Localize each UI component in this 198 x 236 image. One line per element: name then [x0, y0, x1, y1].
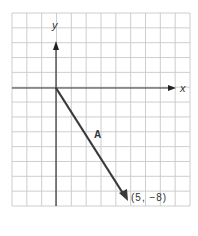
endpoint-label: (5, −8) [131, 192, 167, 203]
vector-a [56, 88, 128, 201]
y-axis [53, 41, 59, 206]
vector-diagram: x y A (5, −8) [0, 0, 198, 236]
vector-label: A [94, 129, 101, 140]
x-axis-label: x [179, 82, 186, 94]
y-axis-label: y [51, 19, 59, 31]
x-axis [12, 85, 176, 91]
grid [12, 13, 190, 206]
